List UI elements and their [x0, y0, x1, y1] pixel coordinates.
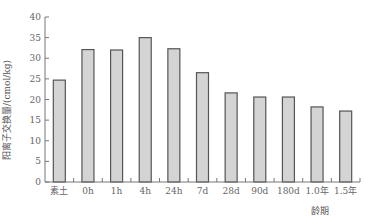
bars [53, 38, 351, 182]
bar [53, 80, 65, 182]
chart-canvas: 0510152025303540 素土0h1h4h24h7d28d90d180d… [0, 0, 368, 220]
x-tick-label: 28d [223, 186, 240, 196]
y-tick-label: 5 [35, 156, 41, 166]
bar [282, 97, 294, 182]
x-tick-label: 180d [277, 186, 300, 196]
x-tick-label: 0h [82, 186, 94, 196]
bar [340, 111, 352, 182]
x-tick-label: 4h [139, 186, 151, 196]
x-tick-label: 1.0年 [305, 185, 328, 196]
y-tick-label: 25 [30, 74, 42, 84]
bar [225, 93, 237, 182]
y-axis: 0510152025303540 [30, 12, 49, 187]
x-tick-label: 90d [251, 186, 268, 196]
x-axis-label: 龄期 [311, 205, 329, 216]
bar [168, 49, 180, 182]
y-tick-label: 20 [30, 95, 42, 105]
y-tick-label: 40 [30, 12, 42, 22]
y-tick-label: 30 [30, 53, 42, 63]
x-tick-label: 1.5年 [334, 185, 357, 196]
y-tick-label: 10 [30, 136, 42, 146]
bar [311, 107, 323, 182]
x-tick-label: 24h [165, 186, 182, 196]
y-tick-label: 0 [35, 177, 41, 187]
y-axis-label: 阳离子交换量/(cmol/kg) [1, 60, 12, 160]
x-tick-label: 7d [197, 186, 209, 196]
bar-chart: 0510152025303540 素土0h1h4h24h7d28d90d180d… [0, 0, 368, 220]
x-tick-label: 1h [111, 186, 123, 196]
bar [82, 50, 94, 182]
x-tick-label: 素土 [50, 185, 68, 196]
bar [111, 50, 123, 182]
bar [197, 73, 209, 182]
bar [139, 38, 151, 182]
y-tick-label: 15 [30, 115, 42, 125]
y-tick-label: 35 [30, 33, 42, 43]
bar [254, 97, 266, 182]
